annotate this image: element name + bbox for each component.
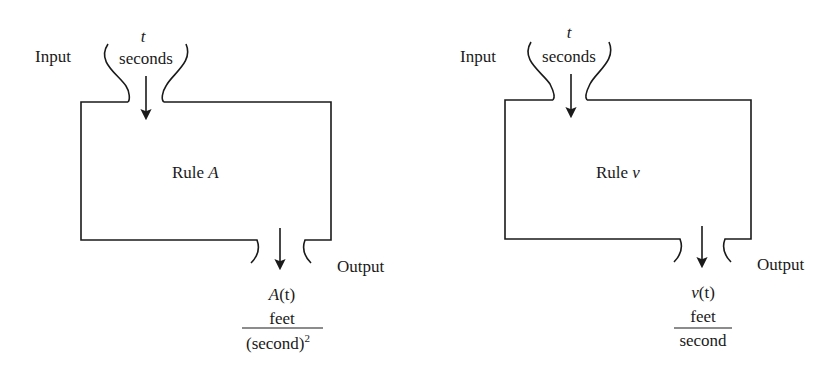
machine-box — [81, 102, 331, 263]
unit-denominator: (second)2 — [246, 332, 310, 353]
rule-label: Rule A — [172, 163, 219, 182]
unit-numerator: feet — [690, 307, 716, 326]
input-unit: seconds — [119, 49, 173, 68]
unit-denominator: second — [679, 331, 727, 350]
input-variable: t — [567, 23, 573, 42]
rule-v-machine: Input t seconds Rule v Output v(t) feet … — [460, 23, 805, 350]
input-label: Input — [460, 47, 496, 66]
rule-a-machine: Input t seconds Rule A Output A(t) feet … — [35, 27, 385, 353]
output-label: Output — [337, 257, 385, 276]
input-unit: seconds — [542, 47, 596, 66]
output-function: v(t) — [691, 283, 715, 302]
rule-label: Rule v — [596, 163, 640, 182]
input-label: Input — [35, 47, 71, 66]
unit-numerator: feet — [269, 309, 295, 328]
output-label: Output — [757, 255, 805, 274]
output-function: A(t) — [268, 285, 295, 304]
function-machine-diagrams: Input t seconds Rule A Output A(t) feet … — [0, 0, 840, 366]
input-variable: t — [141, 27, 147, 46]
